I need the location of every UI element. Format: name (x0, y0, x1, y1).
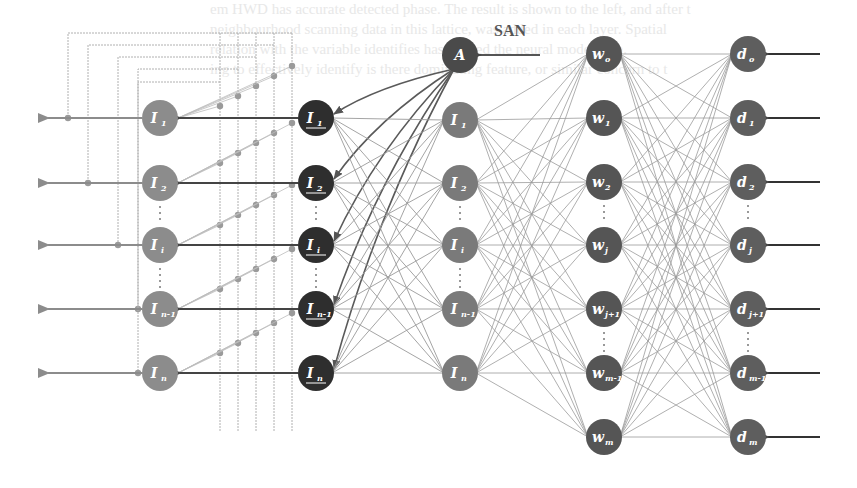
feedback-diagonal (178, 249, 292, 309)
weight-node-wj: wj (586, 227, 622, 263)
output-node-In: In (142, 355, 178, 391)
svg-text:I: I (450, 301, 458, 317)
output-node-In-1: In-1 (142, 291, 178, 327)
hidden-node-hIi: Ii (442, 227, 478, 263)
ellipsis-dot (459, 286, 461, 288)
ellipsis-dot (315, 280, 317, 282)
feedback-diagonal (178, 185, 292, 245)
junction-dot (289, 120, 295, 126)
svg-text:i: i (161, 245, 164, 255)
ellipsis-dot (459, 268, 461, 270)
svg-text:2: 2 (604, 182, 611, 192)
junction-dot (289, 63, 295, 69)
ellipsis-dot (459, 274, 461, 276)
ellipsis-dot (159, 274, 161, 276)
svg-text:2: 2 (160, 183, 167, 193)
ellipsis-dot (459, 280, 461, 282)
ellipsis-dot (747, 344, 749, 346)
ellipsis-dot (603, 217, 605, 219)
hidden-node-hI2: I2 (442, 165, 478, 201)
desired-node-d1: d1 (730, 100, 766, 136)
svg-text:n: n (317, 373, 323, 383)
san-label: SAN (494, 22, 526, 39)
weight-node-wm-1: wm-1 (586, 355, 622, 391)
hidden-node-hIn: In (442, 355, 478, 391)
ellipsis-dot (315, 286, 317, 288)
svg-text:1: 1 (317, 118, 323, 128)
ellipsis-dot (459, 212, 461, 214)
svg-text:2: 2 (460, 183, 467, 193)
svg-text:n-1: n-1 (161, 309, 176, 319)
desired-node-dm: dm (730, 419, 766, 455)
svg-text:w: w (592, 46, 605, 62)
svg-text:I: I (450, 175, 458, 191)
attention-node-A: A (442, 37, 478, 73)
svg-text:d: d (737, 46, 747, 62)
ellipsis-dot (459, 206, 461, 208)
feedback-diagonal (178, 313, 292, 373)
svg-text:w: w (592, 174, 605, 190)
svg-text:m-1: m-1 (605, 373, 622, 383)
ellipsis-dot (747, 350, 749, 352)
svg-text:d: d (737, 429, 747, 445)
hidden-node-hI1: I1 (442, 102, 478, 138)
ellipsis-dot (747, 217, 749, 219)
network-edges (332, 54, 732, 437)
mesh-edge (476, 183, 588, 437)
input-node-uIi: Ii (298, 227, 334, 263)
svg-text:d: d (737, 301, 747, 317)
svg-text:I: I (450, 365, 458, 381)
mesh-edge (476, 54, 588, 309)
svg-text:I: I (150, 110, 158, 126)
background-text-line: neighbourhood scanning data in this latt… (210, 21, 667, 37)
svg-text:j+1: j+1 (747, 309, 764, 319)
ellipsis-dot (315, 218, 317, 220)
background-text-line: relation with the variable identifies ha… (210, 41, 627, 57)
svg-text:I: I (150, 237, 158, 253)
junction-dot (271, 192, 277, 198)
svg-text:I: I (150, 365, 158, 381)
svg-text:I: I (306, 110, 314, 126)
svg-text:m: m (605, 437, 613, 447)
svg-text:d: d (737, 174, 747, 190)
mesh-edge (476, 118, 588, 183)
feedback-line (118, 57, 256, 245)
input-node-uIn-1: In-1 (298, 291, 334, 327)
ellipsis-dot (159, 286, 161, 288)
svg-text:I: I (150, 175, 158, 191)
svg-text:d: d (737, 365, 747, 381)
ellipsis-dot (747, 205, 749, 207)
ellipsis-dot (603, 211, 605, 213)
junction-dot (271, 256, 277, 262)
svg-text:I: I (150, 301, 158, 317)
svg-text:w: w (592, 429, 605, 445)
mesh-edge (476, 54, 588, 373)
svg-text:I: I (306, 237, 314, 253)
ellipsis-dot (315, 274, 317, 276)
weight-node-w2: w2 (586, 164, 622, 200)
feedback-diagonal (178, 123, 292, 183)
ellipsis-dot (315, 268, 317, 270)
desired-node-dj+1: dj+1 (730, 291, 766, 327)
background-text-line: em HWD has accurate detected phase. The … (210, 1, 692, 17)
svg-text:2: 2 (748, 182, 755, 192)
junction-dot (271, 320, 277, 326)
svg-text:A: A (453, 47, 466, 63)
junction-dot (271, 73, 277, 79)
ellipsis-dot (747, 211, 749, 213)
weight-node-wj+1: wj+1 (586, 291, 622, 327)
junction-dot (271, 130, 277, 136)
ellipsis-dot (159, 218, 161, 220)
svg-text:w: w (592, 301, 605, 317)
svg-text:w: w (592, 237, 605, 253)
svg-text:n-1: n-1 (317, 309, 332, 319)
weight-node-w0: wo (586, 36, 622, 72)
svg-text:I: I (306, 301, 314, 317)
ellipsis-dot (603, 332, 605, 334)
ellipsis-dot (603, 344, 605, 346)
svg-text:i: i (461, 245, 464, 255)
weight-node-wm: wm (586, 419, 622, 455)
ellipsis-dot (603, 205, 605, 207)
svg-text:I: I (450, 112, 458, 128)
svg-text:w: w (592, 365, 605, 381)
